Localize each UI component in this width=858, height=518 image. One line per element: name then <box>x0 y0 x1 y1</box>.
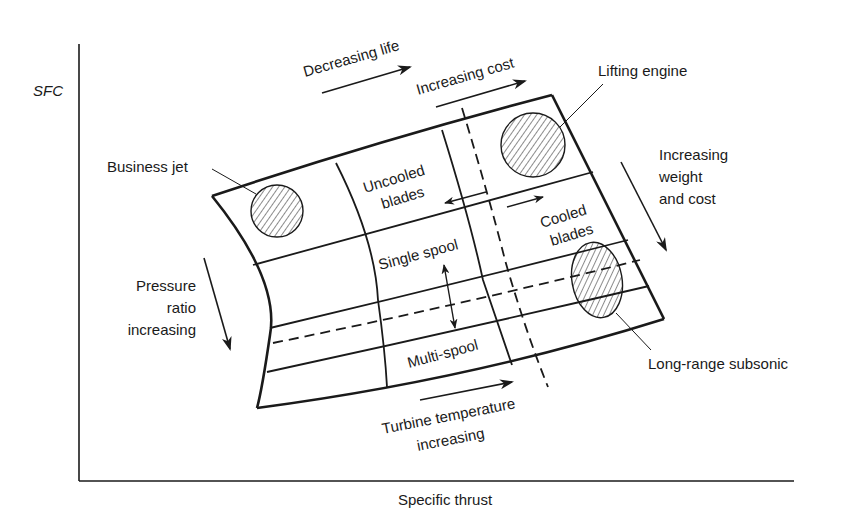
increasing-cost-label: Increasing cost <box>414 54 516 98</box>
business-jet-region <box>251 185 303 237</box>
pressure-ratio-arrow <box>204 258 230 349</box>
pressure-ratio-label-3: increasing <box>128 321 196 338</box>
multi-spool-label: Multi-spool <box>405 336 479 371</box>
x-axis-label: Specific thrust <box>398 491 493 508</box>
engine-design-map-diagram: SFC Specific thrust Business jet Lifting… <box>0 0 858 518</box>
y-axis-label: SFC <box>33 82 63 99</box>
spool-double-arrow <box>444 265 455 328</box>
lifting-engine-label: Lifting engine <box>598 62 687 79</box>
increasing-weight-label-3: and cost <box>659 190 717 207</box>
increasing-weight-label-2: weight <box>658 168 703 185</box>
long-range-subsonic-region <box>566 238 628 322</box>
business-jet-label: Business jet <box>107 158 189 175</box>
single-spool-label: Single spool <box>376 235 459 273</box>
increasing-weight-label-1: Increasing <box>659 146 728 163</box>
uncooled-blades-arrow <box>445 192 486 203</box>
long-range-subsonic-label: Long-range subsonic <box>648 355 789 372</box>
lifting-engine-region <box>501 113 565 177</box>
business-jet-leader <box>212 169 256 194</box>
lifting-engine-leader <box>560 84 603 127</box>
grid-bottom-edge <box>257 319 664 408</box>
cooled-blades-arrow <box>507 197 543 207</box>
pressure-ratio-label-2: ratio <box>167 299 196 316</box>
pressure-ratio-label-1: Pressure <box>136 277 196 294</box>
